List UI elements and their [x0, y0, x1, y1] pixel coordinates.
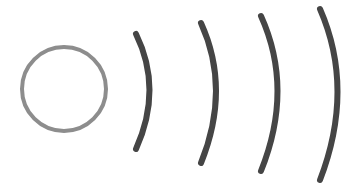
wave-arc-3-icon	[261, 16, 278, 171]
signal-wave-icon	[0, 0, 363, 185]
wave-arc-2-icon	[201, 23, 216, 163]
wave-arc-4-icon	[320, 9, 338, 180]
signal-wave-svg	[0, 0, 363, 185]
wave-arc-1-icon	[136, 34, 150, 149]
source-circle-icon	[22, 47, 106, 131]
